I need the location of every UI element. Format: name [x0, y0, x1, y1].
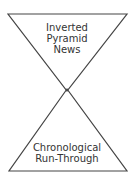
bottom-label-line-1: Chronological: [0, 142, 134, 153]
top-label-line-1: Inverted: [0, 22, 134, 33]
bottom-label-line-2: Run-Through: [0, 153, 134, 164]
inverted-pyramid-label: Inverted Pyramid News: [0, 22, 134, 55]
top-label-line-3: News: [0, 44, 134, 55]
chronological-label: Chronological Run-Through: [0, 142, 134, 164]
top-label-line-2: Pyramid: [0, 33, 134, 44]
